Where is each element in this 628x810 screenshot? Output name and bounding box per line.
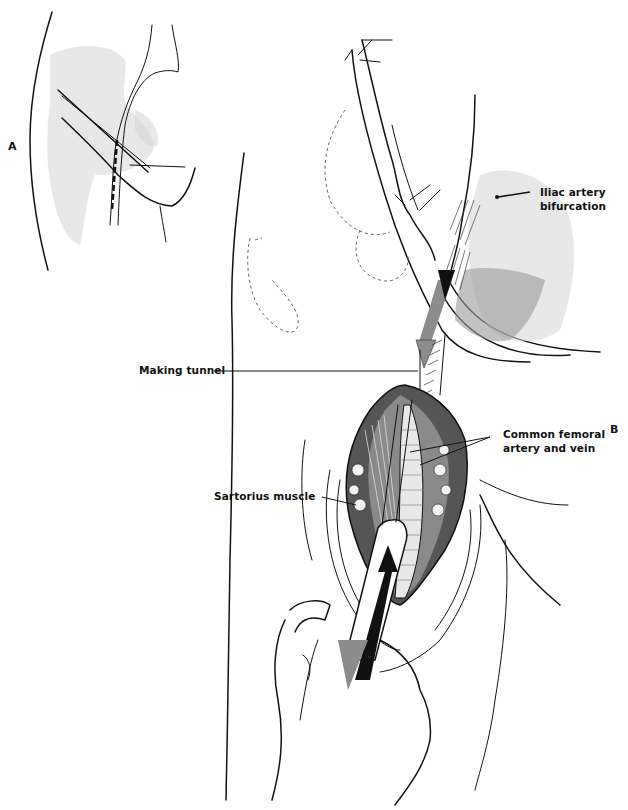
panel-label-a: A [8, 140, 17, 153]
surgical-illustration: A B Iliac artery bifurcation Making tunn… [0, 0, 628, 810]
label-sartorius-muscle: Sartorius muscle [214, 489, 315, 503]
panel-label-b: B [610, 423, 618, 436]
label-femoral-line2: artery and vein [503, 441, 605, 455]
label-making-tunnel: Making tunnel [139, 363, 225, 377]
label-common-femoral-artery-vein: Common femoral artery and vein [503, 427, 605, 455]
panel-a-drawing [30, 12, 195, 270]
label-iliac-line2: bifurcation [540, 199, 606, 213]
panel-b-drawing [214, 40, 600, 805]
illustration-drawing [0, 0, 628, 810]
label-iliac-line1: Iliac artery [540, 185, 606, 199]
label-femoral-line1: Common femoral [503, 427, 605, 441]
label-iliac-artery-bifurcation: Iliac artery bifurcation [540, 185, 606, 213]
